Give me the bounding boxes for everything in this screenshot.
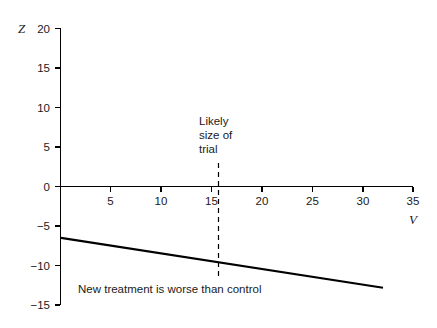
y-axis-title: Z	[18, 21, 26, 36]
likely-size-annotation-line3: trial	[199, 143, 218, 155]
x-tick-label-15: 15	[205, 195, 218, 207]
line-chart-canvas: 20 15 10 5 0 −5 −10 −15 Z 5 10 15 20 25 …	[0, 0, 437, 328]
chart-figure: 20 15 10 5 0 −5 −10 −15 Z 5 10 15 20 25 …	[0, 0, 437, 328]
y-tick-label-15: 15	[37, 62, 50, 74]
x-tick-label-30: 30	[357, 195, 370, 207]
y-tick-label-10: 10	[37, 102, 50, 114]
y-tick-label-5: 5	[44, 141, 50, 153]
likely-size-annotation-line2: size of	[199, 129, 233, 141]
x-tick-label-10: 10	[155, 195, 168, 207]
expected-z-series-line	[61, 238, 383, 288]
region-caption: New treatment is worse than control	[78, 283, 261, 295]
y-tick-label-0: 0	[44, 181, 50, 193]
likely-size-annotation-line1: Likely	[199, 115, 229, 127]
x-tick-label-35: 35	[407, 195, 420, 207]
x-axis-title: V	[409, 212, 419, 227]
x-tick-label-25: 25	[306, 195, 319, 207]
y-tick-label-minus5: −5	[37, 220, 50, 232]
x-tick-label-20: 20	[256, 195, 269, 207]
y-tick-label-20: 20	[37, 23, 50, 35]
x-tick-label-5: 5	[107, 195, 113, 207]
y-tick-label-minus15: −15	[30, 299, 50, 311]
y-tick-label-minus10: −10	[30, 260, 50, 272]
